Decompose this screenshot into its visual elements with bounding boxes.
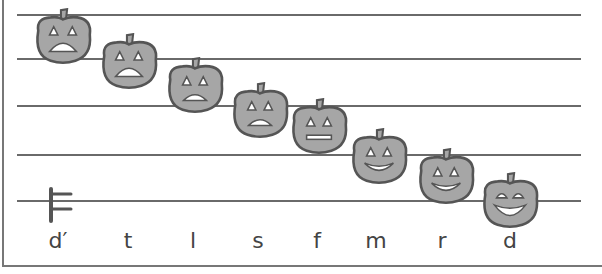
pumpkin-worried-icon [162,57,228,117]
pumpkin-note-5 [346,128,412,188]
pumpkin-note-1 [96,33,162,93]
pumpkin-note-3 [227,82,293,142]
pumpkin-laughing-icon [477,172,543,232]
pumpkin-note-7 [477,172,543,232]
staff-line [17,14,581,16]
pumpkin-scared-icon [96,33,162,93]
solfege-label: d′ [43,228,73,253]
solfege-label: s [243,228,273,253]
solfege-label: d [495,228,525,253]
pumpkin-neutral-icon [286,98,352,158]
solfege-label: l [178,228,208,253]
solfege-label: f [302,228,332,253]
pumpkin-smiling-icon [413,148,479,208]
solfege-label: t [113,228,143,253]
pumpkin-smiling-icon [346,128,412,188]
solfege-label: m [361,228,391,253]
pumpkin-note-6 [413,148,479,208]
do-clef-icon [46,187,76,223]
pumpkin-scared-icon [30,8,96,68]
pumpkin-worried-icon [227,82,293,142]
pumpkin-note-4 [286,98,352,158]
pumpkin-note-0 [30,8,96,68]
pumpkin-note-2 [162,57,228,117]
solfege-label: r [427,228,457,253]
